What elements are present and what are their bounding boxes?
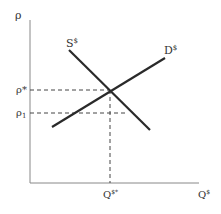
y-axis-label: ρ	[15, 9, 21, 22]
supply-demand-diagram: ρ S$ D$ ρ* ρ1 Q$* Q$	[0, 0, 221, 214]
demand-label: D$	[164, 44, 177, 57]
quantity-equilibrium-label: Q$*	[103, 188, 118, 200]
demand-curve	[52, 58, 165, 127]
supply-label: S$	[66, 37, 78, 50]
x-axis-label: Q$	[198, 188, 210, 200]
price-1-label: ρ1	[16, 107, 26, 120]
price-equilibrium-label: ρ*	[16, 84, 27, 95]
